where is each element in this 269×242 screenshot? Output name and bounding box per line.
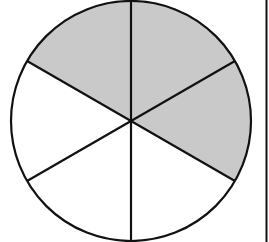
fraction-circle-diagram	[0, 0, 269, 242]
